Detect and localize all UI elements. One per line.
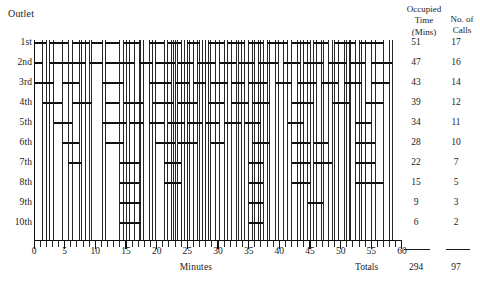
calls-count-2nd: 16: [440, 58, 472, 68]
outlet-row-label-column: 1st2nd3rd4th5th6th7th8th9th10th: [0, 0, 32, 281]
x-axis-tick-label-60: 60: [397, 247, 407, 257]
x-axis-tick-label-10: 10: [91, 247, 101, 257]
occupied-minutes-5th: 34: [398, 118, 434, 128]
occupancy-chart-page: Outlet 1st2nd3rd4th5th6th7th8th9th10th M…: [0, 0, 480, 281]
occupied-minutes-6th: 28: [398, 138, 434, 148]
x-axis: [34, 236, 402, 246]
outlet-row-label-1st: 1st: [2, 38, 32, 48]
outlet-row-label-5th: 5th: [2, 118, 32, 128]
totals-rule-minutes: [404, 249, 430, 250]
outlet-row-label-3rd: 3rd: [2, 78, 32, 88]
occupied-minutes-8th: 15: [398, 178, 434, 188]
calls-column-header: No. of Calls: [440, 14, 480, 37]
calls-count-9th: 3: [440, 198, 472, 208]
x-axis-tick-label-30: 30: [213, 247, 223, 257]
x-axis-tick-label-40: 40: [275, 247, 285, 257]
occupancy-plot: [34, 40, 402, 240]
x-axis-tick-label-20: 20: [152, 247, 162, 257]
totals-calls-value: 97: [440, 262, 472, 272]
outlet-row-label-6th: 6th: [2, 138, 32, 148]
occupied-minutes-9th: 9: [398, 198, 434, 208]
calls-count-8th: 5: [440, 178, 472, 188]
outlet-row-label-2nd: 2nd: [2, 58, 32, 68]
outlet-row-label-4th: 4th: [2, 98, 32, 108]
occupied-minutes-4th: 39: [398, 98, 434, 108]
outlet-row-label-7th: 7th: [2, 158, 32, 168]
x-axis-tick-label-50: 50: [336, 247, 346, 257]
calls-count-10th: 2: [440, 218, 472, 228]
totals-rule-calls: [446, 249, 470, 250]
x-axis-tick-label-15: 15: [121, 247, 131, 257]
calls-count-1st: 17: [440, 38, 472, 48]
occupancy-plot-svg: [34, 40, 402, 240]
occupied-minutes-1st: 51: [398, 38, 434, 48]
x-axis-tick-label-0: 0: [32, 247, 37, 257]
occupied-minutes-7th: 22: [398, 158, 434, 168]
calls-count-4th: 12: [440, 98, 472, 108]
occupied-minutes-10th: 6: [398, 218, 434, 228]
outlet-row-label-8th: 8th: [2, 178, 32, 188]
x-axis-tick-label-35: 35: [244, 247, 254, 257]
totals-label: Totals: [355, 262, 378, 272]
totals-minutes-value: 294: [398, 262, 434, 272]
x-axis-tick-label-25: 25: [183, 247, 193, 257]
x-axis-tick-label-45: 45: [305, 247, 315, 257]
calls-count-7th: 7: [440, 158, 472, 168]
calls-count-3rd: 14: [440, 78, 472, 88]
occupied-minutes-2nd: 47: [398, 58, 434, 68]
x-axis-tick-label-55: 55: [367, 247, 377, 257]
outlet-row-label-10th: 10th: [2, 218, 32, 228]
calls-count-5th: 11: [440, 118, 472, 128]
calls-count-6th: 10: [440, 138, 472, 148]
calls-header-line-1: No. of: [440, 14, 480, 25]
occupied-minutes-3rd: 43: [398, 78, 434, 88]
outlet-row-label-9th: 9th: [2, 198, 32, 208]
calls-header-line-2: Calls: [440, 25, 480, 36]
x-axis-title: Minutes: [180, 262, 213, 272]
x-axis-tick-label-5: 5: [62, 247, 67, 257]
